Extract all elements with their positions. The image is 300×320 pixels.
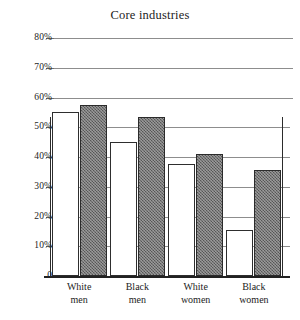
bar-white-women-shaded (196, 154, 223, 276)
bar-black-women-shaded (254, 170, 281, 276)
y-tick-label-30: 30% (8, 181, 52, 191)
y-tick-label-80: 80% (8, 32, 52, 42)
bar-white-men-open (52, 112, 79, 276)
x-axis-baseline (44, 276, 290, 278)
gridline-60 (47, 98, 293, 99)
bar-black-men-shaded (138, 117, 165, 276)
y-tick-label-10: 10% (8, 240, 52, 250)
y-tick-label-20: 20% (8, 211, 52, 221)
y-tick-label-50: 50% (8, 121, 52, 131)
gridline-70 (47, 68, 293, 69)
y-tick-label-60: 60% (8, 92, 52, 102)
category-label-white-women: Whitewomen (167, 281, 225, 306)
y-tick-label-70: 70% (8, 62, 52, 72)
chart-figure: Core industries 80%70%60%50%40%30%20%10%… (0, 0, 300, 320)
category-label-black-women: Blackwomen (225, 281, 283, 306)
bar-black-men-open (110, 142, 137, 276)
plot-area: 80%70%60%50%40%30%20%10%0 WhitemenBlackm… (0, 0, 300, 320)
y-axis-right-spine (282, 117, 283, 277)
category-label-white-men: Whitemen (50, 281, 108, 306)
category-label-black-men: Blackmen (108, 281, 166, 306)
y-tick-label-0: 0 (8, 270, 52, 280)
gridline-80 (47, 38, 293, 39)
bar-black-women-open (226, 230, 253, 276)
bar-white-men-shaded (80, 105, 107, 276)
y-tick-label-40: 40% (8, 151, 52, 161)
bar-white-women-open (168, 164, 195, 276)
